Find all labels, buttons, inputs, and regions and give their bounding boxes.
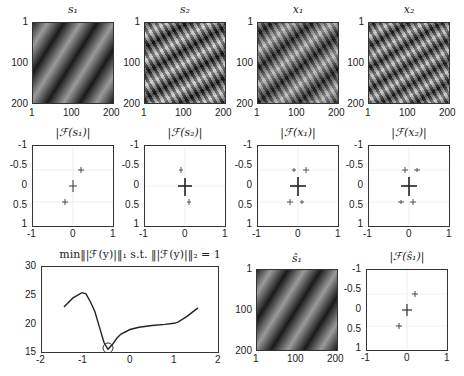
x-tick: 200 xyxy=(439,107,456,118)
panel-title: x₁ xyxy=(257,3,339,16)
y-tick: 1 xyxy=(22,16,28,27)
x-tick: 100 xyxy=(287,353,304,364)
fft-plot-s1-hat xyxy=(366,269,448,351)
panel-title: |ℱ(x₁)| xyxy=(257,126,339,139)
panel-title: x₂ xyxy=(368,3,450,16)
image-s1-hat xyxy=(256,269,338,351)
y-tick: 200 xyxy=(11,98,28,109)
x-tick: 1 xyxy=(446,228,452,239)
panel-fft-s1-hat: |ℱ(ŝ₁)| -1 -0.5 0 0.5 1 -1 0 1 xyxy=(348,245,464,376)
panel-title: |ℱ(s₁)| xyxy=(32,126,114,139)
y-tick: 100 xyxy=(236,57,253,68)
fft-plot-s1 xyxy=(32,145,114,227)
x-tick: 2 xyxy=(215,354,221,365)
y-tick: 1 xyxy=(134,16,140,27)
x-tick: 0 xyxy=(70,228,76,239)
panel-line-plot: min‖|ℱ(y)|‖₁ s.t. ‖|ℱ(y)|‖₂ = 1 30 25 20… xyxy=(0,245,240,376)
y-tick: 0.5 xyxy=(347,323,361,334)
y-tick: 200 xyxy=(236,98,253,109)
x-tick: -1 xyxy=(252,228,261,239)
y-tick: -0.5 xyxy=(10,159,27,170)
x-tick: 100 xyxy=(399,107,416,118)
y-tick: 200 xyxy=(235,345,252,356)
y-tick: 0 xyxy=(355,303,361,314)
x-tick: -1 xyxy=(27,228,36,239)
panel-title: min‖|ℱ(y)|‖₁ s.t. ‖|ℱ(y)|‖₂ = 1 xyxy=(40,248,240,261)
y-tick: -1 xyxy=(243,139,252,150)
y-tick: -1 xyxy=(18,139,27,150)
y-tick: 25 xyxy=(25,289,36,300)
x-tick: -1 xyxy=(363,228,372,239)
y-tick: 100 xyxy=(11,57,28,68)
x-tick: -1 xyxy=(139,228,148,239)
fft-plot-x1 xyxy=(257,145,339,227)
y-tick: -1 xyxy=(130,139,139,150)
y-tick: 100 xyxy=(123,57,140,68)
x-tick: 0 xyxy=(295,228,301,239)
image-s2 xyxy=(144,22,226,104)
y-tick: 0 xyxy=(21,179,27,190)
y-tick: 30 xyxy=(25,260,36,271)
fft-plot-x2 xyxy=(368,145,450,227)
fft-plot-s2 xyxy=(144,145,226,227)
panel-s1: s₁ 1 100 200 1 100 200 xyxy=(0,0,116,125)
panel-title: |ℱ(x₂)| xyxy=(368,126,450,139)
x-tick: 1 xyxy=(253,353,259,364)
y-tick: -1 xyxy=(352,263,361,274)
y-tick: 1 xyxy=(247,16,253,27)
y-tick: -0.5 xyxy=(235,159,252,170)
panel-title: s₁ xyxy=(32,3,114,16)
y-tick: 200 xyxy=(347,98,364,109)
y-tick: -0.5 xyxy=(344,283,361,294)
x-tick: 200 xyxy=(215,107,232,118)
x-tick: 1 xyxy=(254,107,260,118)
y-tick: 20 xyxy=(25,318,36,329)
x-tick: 200 xyxy=(327,353,344,364)
y-tick: 0.5 xyxy=(349,199,363,210)
x-tick: 0 xyxy=(127,354,133,365)
y-tick: 0.5 xyxy=(238,199,252,210)
x-tick: 1 xyxy=(29,107,35,118)
panel-x2: x₂ 1 100 200 1 100 200 xyxy=(348,0,464,125)
panel-title: |ℱ(ŝ₁)| xyxy=(366,250,448,263)
x-tick: 0 xyxy=(404,352,410,363)
y-tick: 100 xyxy=(235,304,252,315)
x-tick: 1 xyxy=(110,228,116,239)
image-s1 xyxy=(32,22,114,104)
y-tick: 0 xyxy=(357,179,363,190)
panel-s1-hat: ŝ₁ 1 100 200 1 100 200 xyxy=(240,245,348,376)
panel-fft-x1: |ℱ(x₁)| -1 -0.5 0 0.5 1 -1 0 1 xyxy=(232,125,348,245)
x-tick: 100 xyxy=(63,107,80,118)
panel-fft-s2: |ℱ(s₂)| -1 -0.5 0 0.5 1 -1 0 1 xyxy=(116,125,232,245)
panel-title: |ℱ(s₂)| xyxy=(144,126,226,139)
x-tick: 0 xyxy=(406,228,412,239)
x-tick: 100 xyxy=(175,107,192,118)
x-tick: 100 xyxy=(288,107,305,118)
x-tick: 1 xyxy=(335,228,341,239)
panel-title: ŝ₁ xyxy=(256,252,338,265)
panel-x1: x₁ 1 100 200 1 100 200 xyxy=(232,0,348,125)
x-tick: 200 xyxy=(328,107,345,118)
panel-fft-s1: |ℱ(s₁)| -1 -0.5 0 0.5 1 -1 0 1 xyxy=(0,125,116,245)
panel-fft-x2: |ℱ(x₂)| -1 -0.5 0 0.5 1 -1 0 1 xyxy=(348,125,464,245)
x-tick: 1 xyxy=(171,354,177,365)
image-x2 xyxy=(368,22,450,104)
y-tick: 200 xyxy=(123,98,140,109)
x-tick: -1 xyxy=(361,352,370,363)
y-tick: -1 xyxy=(354,139,363,150)
x-tick: 1 xyxy=(444,352,450,363)
x-tick: -1 xyxy=(78,354,87,365)
x-tick: -2 xyxy=(36,354,45,365)
y-tick: 1 xyxy=(358,16,364,27)
x-tick: 1 xyxy=(365,107,371,118)
y-tick: 15 xyxy=(25,346,36,357)
panel-title: s₂ xyxy=(144,3,226,16)
panel-s2: s₂ 1 100 200 1 100 200 xyxy=(116,0,232,125)
y-tick: -0.5 xyxy=(346,159,363,170)
y-tick: -0.5 xyxy=(122,159,139,170)
y-tick: 100 xyxy=(347,57,364,68)
line-plot-frame xyxy=(41,266,219,353)
y-tick: 0.5 xyxy=(13,199,27,210)
x-tick: 1 xyxy=(141,107,147,118)
y-tick: 0.5 xyxy=(125,199,139,210)
